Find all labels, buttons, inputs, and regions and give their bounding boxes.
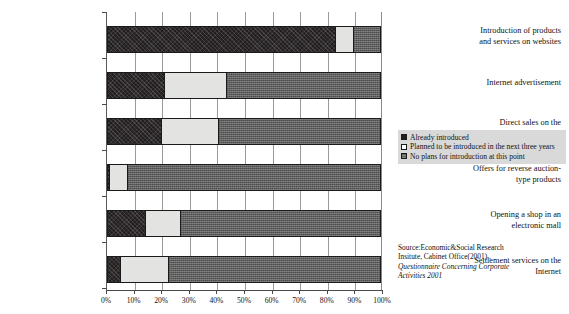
category-label-4: Opening a shop in an electronic mall [431, 210, 561, 231]
bar-2 [107, 118, 381, 145]
source-line: Questionnaire Concerning Corporate [398, 262, 558, 271]
category-label-line: Opening a shop in an [431, 210, 561, 221]
x-tick [106, 290, 107, 294]
legend-swatch-icon [401, 134, 407, 140]
gridline-40 [217, 12, 218, 290]
legend-label: No plans for introduction at this point [410, 152, 525, 161]
x-tick-label: 0% [91, 296, 121, 305]
bar-segment [120, 256, 170, 283]
x-tick [299, 290, 300, 294]
bar-segment [168, 256, 381, 283]
plot-area [106, 12, 382, 290]
bar-segment [107, 26, 336, 53]
y-tick [102, 12, 107, 13]
gridline-70 [300, 12, 301, 290]
x-tick [354, 290, 355, 294]
bar-segment [335, 26, 354, 53]
x-tick-label: 40% [201, 296, 231, 305]
category-label-line: Internet advertisement [431, 78, 561, 89]
legend: Already introduced Planned to be introdu… [398, 130, 566, 164]
gridline-20 [162, 12, 163, 290]
source-note: Source:Economic&Social Research Insitute… [398, 243, 558, 281]
bar-segment [127, 164, 381, 191]
category-label-line: Direct sales on the [431, 118, 561, 129]
gridline-60 [273, 12, 274, 290]
x-tick [244, 290, 245, 294]
bar-segment [145, 210, 181, 237]
x-tick-label: 70% [284, 296, 314, 305]
bar-segment [107, 118, 162, 145]
source-line: Source:Economic&Social Research [398, 243, 558, 252]
category-label-line: Introduction of products [431, 26, 561, 37]
bar-3 [107, 164, 381, 191]
x-tick-label: 80% [312, 296, 342, 305]
bar-segment [161, 118, 219, 145]
x-tick-label: 30% [174, 296, 204, 305]
x-tick [272, 290, 273, 294]
x-tick-label: 60% [257, 296, 287, 305]
bar-segment [109, 164, 128, 191]
bar-4 [107, 210, 381, 237]
y-tick [102, 196, 107, 197]
x-tick [327, 290, 328, 294]
bar-segment [180, 210, 381, 237]
bar-segment [353, 26, 381, 53]
legend-swatch-icon [401, 144, 407, 150]
category-label-0: Introduction of products and services on… [431, 26, 561, 47]
x-tick [216, 290, 217, 294]
category-label-line: type products [431, 175, 561, 186]
bar-segment [218, 118, 381, 145]
x-tick [161, 290, 162, 294]
x-tick-label: 20% [146, 296, 176, 305]
x-tick [382, 290, 383, 294]
category-label-line: Offers for reverse auction- [431, 164, 561, 175]
y-tick [102, 288, 107, 289]
category-label-1: Internet advertisement [431, 78, 561, 89]
category-label-3: Offers for reverse auction- type product… [431, 164, 561, 185]
y-tick [102, 58, 107, 59]
x-tick-label: 50% [229, 296, 259, 305]
x-tick-label: 100% [367, 296, 397, 305]
bar-segment [107, 210, 146, 237]
y-tick [102, 104, 107, 105]
legend-swatch-icon [401, 153, 407, 159]
legend-item-2: No plans for introduction at this point [401, 152, 563, 161]
bar-1 [107, 72, 381, 99]
bar-segment [164, 72, 227, 99]
stacked-bar-chart-figure: Introduction of products and services on… [0, 0, 569, 314]
source-line: Insitute, Cabinet Office(2001) , [398, 252, 558, 261]
legend-label: Planned to be introduced in the next thr… [410, 142, 555, 151]
bar-5 [107, 256, 381, 283]
category-label-line: and services on websites [431, 37, 561, 48]
x-tick-label: 90% [339, 296, 369, 305]
gridline-10 [135, 12, 136, 290]
y-tick [102, 242, 107, 243]
bar-0 [107, 26, 381, 53]
x-tick [134, 290, 135, 294]
legend-item-1: Planned to be introduced in the next thr… [401, 142, 563, 151]
category-label-line: electronic mall [431, 221, 561, 232]
gridline-50 [245, 12, 246, 290]
x-tick [189, 290, 190, 294]
legend-label: Already introduced [410, 133, 469, 142]
bar-segment [226, 72, 381, 99]
source-line: Activities 2001 [398, 271, 558, 280]
bar-segment [107, 72, 165, 99]
legend-item-0: Already introduced [401, 133, 563, 142]
gridline-30 [190, 12, 191, 290]
y-tick [102, 150, 107, 151]
x-tick-label: 10% [119, 296, 149, 305]
gridline-90 [355, 12, 356, 290]
bar-segment [107, 256, 121, 283]
gridline-80 [328, 12, 329, 290]
